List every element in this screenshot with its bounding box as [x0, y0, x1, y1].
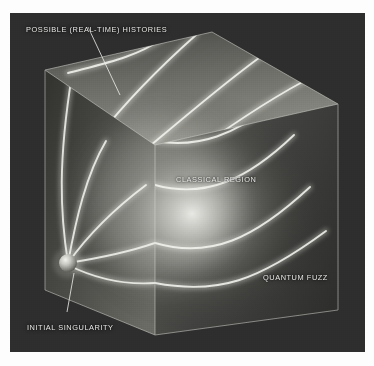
label-quantum-fuzz: QUANTUM FUZZ	[263, 273, 328, 282]
initial-singularity-sphere	[53, 248, 83, 278]
illustration-panel: POSSIBLE (REAL-TIME) HISTORIES CLASSICAL…	[10, 13, 365, 352]
figure-root: POSSIBLE (REAL-TIME) HISTORIES CLASSICAL…	[0, 0, 374, 366]
label-initial-singularity: INITIAL SINGULARITY	[27, 323, 114, 332]
label-possible-histories: POSSIBLE (REAL-TIME) HISTORIES	[26, 25, 167, 34]
label-classical-region: CLASSICAL REGION	[176, 175, 256, 184]
